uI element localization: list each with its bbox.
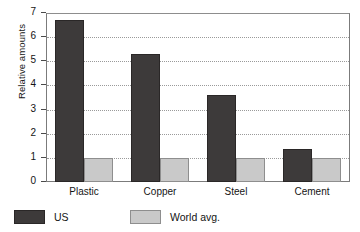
x-axis-label-copper: Copper (122, 186, 198, 197)
bar-chart: Relative amounts 01234567 PlasticCopperS… (0, 0, 360, 232)
legend-swatch-icon (14, 210, 45, 224)
y-tick-label-7: 7 (0, 7, 36, 17)
legend-label: US (54, 211, 69, 223)
bar-group (207, 13, 265, 182)
y-tick-label-0: 0 (0, 176, 36, 186)
bar (236, 158, 265, 182)
bar (207, 95, 236, 182)
x-axis-label-steel: Steel (198, 186, 274, 197)
y-tick-label-6: 6 (0, 31, 36, 41)
bar (312, 158, 341, 182)
legend-item-us[interactable]: US (14, 208, 69, 226)
y-tick-label-5: 5 (0, 55, 36, 65)
legend-item-world-avg[interactable]: World avg. (130, 208, 220, 226)
legend-label: World avg. (170, 211, 220, 223)
bar (131, 54, 160, 182)
bar (160, 158, 189, 182)
y-tick-label-3: 3 (0, 104, 36, 114)
legend-swatch-icon (130, 210, 161, 224)
bar (55, 20, 84, 182)
y-tick-label-4: 4 (0, 79, 36, 89)
bar-group (131, 13, 189, 182)
y-tick-label-2: 2 (0, 128, 36, 138)
y-tick-label-1: 1 (0, 152, 36, 162)
x-axis-label-plastic: Plastic (46, 186, 122, 197)
bar (283, 149, 312, 182)
bar (84, 158, 113, 182)
x-axis-label-cement: Cement (274, 186, 350, 197)
bars-layer (46, 13, 350, 182)
bar-group (55, 13, 113, 182)
bar-group (283, 13, 341, 182)
